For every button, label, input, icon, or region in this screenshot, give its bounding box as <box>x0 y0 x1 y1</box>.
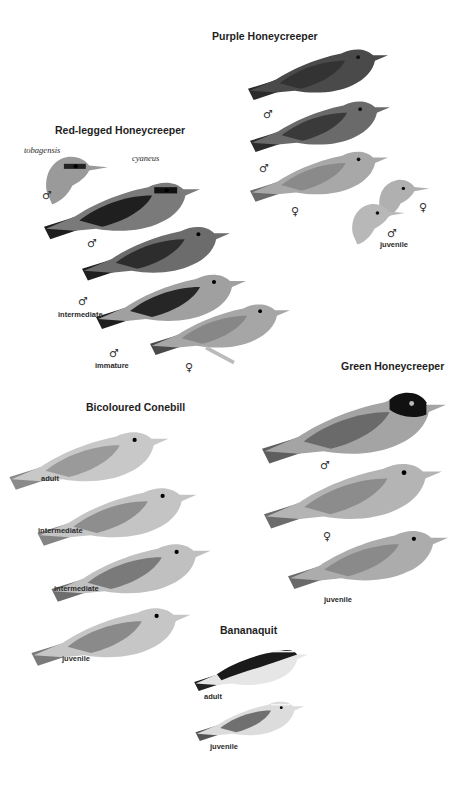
green-honeycreeper-juvenile-illustration <box>288 512 448 604</box>
female-symbol: ♀ <box>291 206 299 217</box>
red-legged-honeycreeper-female-illustration <box>150 288 290 368</box>
figure-label-intermediate: intermediate <box>38 526 83 535</box>
female-symbol: ♀ <box>419 202 427 213</box>
female-symbol: ♀ <box>185 362 193 373</box>
bananaquit-juvenile-illustration <box>188 696 312 744</box>
figure-label-juvenile: juvenile <box>210 742 238 751</box>
figure-label-juvenile: juvenile <box>324 595 352 604</box>
male-symbol: ♂ <box>387 228 397 239</box>
figure-label-juvenile: juvenile <box>380 240 408 249</box>
male-symbol: ♂ <box>109 348 119 359</box>
figure-label-intermediate: intermediate <box>54 584 99 593</box>
male-symbol: ♂ <box>78 296 88 307</box>
species-title-green-honeycreeper: Green Honeycreeper <box>341 360 444 372</box>
purple-honeycreeper-female-illustration <box>250 142 388 208</box>
subspecies-label-cyaneus: cyaneus <box>132 153 159 163</box>
figure-label-immature: immature <box>95 361 129 370</box>
species-title-bicoloured-conebill: Bicoloured Conebill <box>86 401 185 413</box>
species-title-red-legged-honeycreeper: Red-legged Honeycreeper <box>55 124 185 136</box>
bicoloured-conebill-intermediate-2-illustration <box>46 536 216 606</box>
bananaquit-adult-illustration <box>184 644 318 694</box>
bicoloured-conebill-juvenile-illustration <box>26 600 196 670</box>
species-title-bananaquit: Bananaquit <box>220 624 277 636</box>
figure-label-juvenile: juvenile <box>62 654 90 663</box>
figure-label-intermediate: intermediate <box>58 310 103 319</box>
